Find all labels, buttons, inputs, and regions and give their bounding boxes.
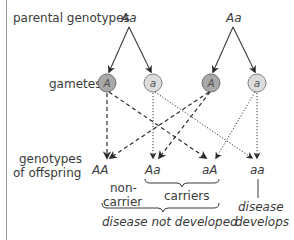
parental-genotypes-label: parental genotypes bbox=[13, 11, 130, 25]
offspring-AA: AA bbox=[91, 163, 108, 177]
carriers-label: carriers bbox=[164, 189, 210, 203]
gamete-A-2: A bbox=[202, 74, 220, 92]
svg-text:A: A bbox=[206, 77, 214, 89]
inheritance-diagram: parental genotypes Aa Aa gametes A a A a bbox=[0, 0, 294, 240]
carriers-brace bbox=[145, 179, 219, 187]
develops-label-line2: develops bbox=[235, 215, 289, 229]
dominant-allele-arrows bbox=[107, 92, 210, 158]
parent-arrows bbox=[109, 27, 255, 72]
offspring-label-line2: of offspring bbox=[13, 166, 81, 180]
noncarrier-label-line1: non- bbox=[110, 181, 137, 195]
recessive-allele-arrows bbox=[153, 92, 257, 158]
gamete-A-1: A bbox=[98, 74, 116, 92]
not-developed-label: disease not developed bbox=[102, 215, 238, 229]
offspring-label-line1: genotypes bbox=[19, 152, 82, 166]
gametes-label: gametes bbox=[49, 77, 101, 91]
parent-1-genotype: Aa bbox=[120, 11, 137, 25]
svg-text:a: a bbox=[150, 77, 156, 89]
svg-text:a: a bbox=[254, 77, 260, 89]
parent-2-genotype: Aa bbox=[225, 11, 242, 25]
gamete-a-1: a bbox=[144, 74, 162, 92]
svg-text:A: A bbox=[102, 77, 110, 89]
offspring-Aa: Aa bbox=[144, 163, 161, 177]
develops-label-line1: disease bbox=[238, 200, 284, 214]
noncarrier-label-line2: carrier bbox=[103, 195, 142, 209]
gamete-a-2: a bbox=[248, 74, 266, 92]
offspring-aa: aa bbox=[250, 163, 265, 177]
offspring-aA: aA bbox=[202, 163, 218, 177]
